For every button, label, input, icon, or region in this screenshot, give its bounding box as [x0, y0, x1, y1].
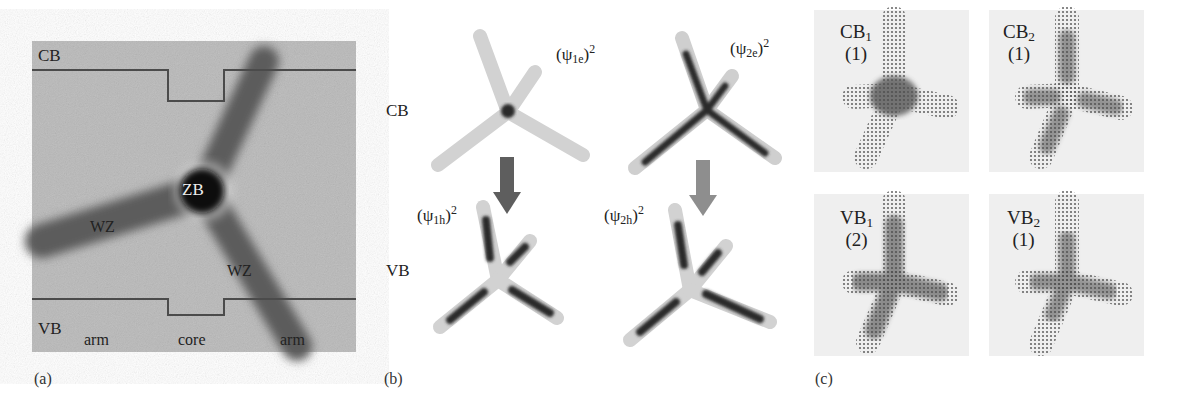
arrow-1-down [493, 157, 521, 214]
cb1-label: CB1 (1) [840, 22, 872, 64]
wz-left-label: WZ [90, 219, 115, 235]
cb-label: CB [38, 47, 61, 64]
arm-right-label: arm [280, 332, 305, 348]
row-label-vb: VB [386, 262, 410, 279]
zb-label: ZB [182, 181, 204, 198]
panel-a: CB VB ZB WZ WZ arm core arm [32, 41, 356, 352]
state-cb2: CB2 (1) [989, 10, 1144, 172]
panel-a-letter: (a) [34, 370, 52, 388]
state-vb1: VB1 (2) [814, 194, 969, 356]
vb1-label: VB1 (2) [840, 208, 873, 250]
row-label-cb: CB [386, 102, 409, 119]
psi-1e-label: (ψ1e)2 [556, 44, 595, 66]
state-vb2: VB2 (1) [989, 194, 1144, 356]
panel-c-letter: (c) [815, 370, 833, 388]
arrow-2-down [689, 160, 717, 216]
psi-2h-label: (ψ2h)2 [604, 205, 644, 227]
cb2-label: CB2 (1) [1003, 22, 1035, 64]
psi-1h-label: (ψ1h)2 [417, 205, 457, 227]
core-label: core [178, 332, 206, 348]
state-cb1: CB1 (1) [814, 10, 969, 172]
panel-b-letter: (b) [384, 370, 403, 388]
psi-2e-label: (ψ2e)2 [730, 38, 769, 60]
vb2-label: VB2 (1) [1007, 208, 1040, 250]
vb-label: VB [38, 320, 62, 337]
wz-right-label: WZ [227, 263, 252, 279]
psi2h-tetrapod [630, 210, 770, 340]
panel-c: CB1 (1) CB2 (1) [814, 10, 1154, 360]
panel-b: CB VB (ψ1e)2 (ψ2e)2 (ψ1h)2 (ψ2h)2 [380, 0, 780, 407]
arm-left-label: arm [84, 332, 109, 348]
psi1h-tetrapod [440, 207, 557, 327]
